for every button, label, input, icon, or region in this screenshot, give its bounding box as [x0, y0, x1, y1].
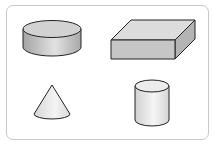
- cone-shape: [34, 85, 70, 119]
- tall-cylinder-shape: [135, 80, 169, 126]
- shapes-diagram: [0, 0, 215, 154]
- rectangular-prism-shape: [111, 20, 195, 59]
- disc-cylinder-shape: [23, 21, 81, 57]
